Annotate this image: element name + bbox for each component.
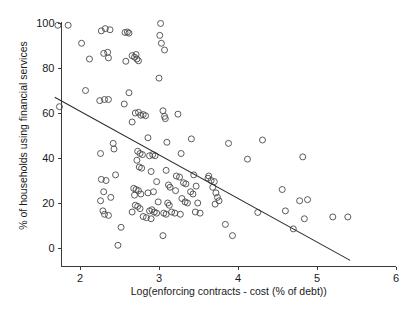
- trendline: [55, 97, 350, 260]
- x-tick-label: 4: [235, 272, 241, 284]
- data-point: [108, 194, 114, 200]
- data-point: [55, 22, 61, 28]
- data-point: [178, 151, 184, 157]
- chart-figure: 020406080100 23456 Log(enforcing contrac…: [0, 0, 419, 315]
- y-tick-label: 60: [42, 107, 54, 119]
- data-point: [101, 50, 107, 56]
- y-tick-label: 20: [42, 197, 54, 209]
- data-point: [158, 20, 164, 26]
- x-tick-label: 5: [314, 272, 320, 284]
- data-point: [121, 101, 127, 107]
- x-axis-ticks: 23456: [77, 267, 399, 284]
- data-point: [65, 22, 71, 28]
- data-point: [110, 140, 116, 146]
- data-point: [212, 201, 218, 207]
- data-point: [195, 200, 201, 206]
- y-tick-label: 100: [36, 17, 54, 29]
- y-tick-label: 0: [48, 242, 54, 254]
- data-point: [173, 188, 179, 194]
- data-point: [162, 47, 168, 53]
- data-point: [145, 190, 151, 196]
- data-point: [135, 58, 141, 64]
- data-point: [193, 183, 199, 189]
- data-point: [229, 233, 235, 239]
- y-axis-ticks: 020406080100: [36, 17, 61, 254]
- data-point: [98, 151, 104, 157]
- data-point: [145, 135, 151, 141]
- data-point: [98, 198, 104, 204]
- data-point: [134, 157, 140, 163]
- data-point: [188, 136, 194, 142]
- data-point: [105, 55, 111, 61]
- data-point: [150, 189, 156, 195]
- x-tick-label: 6: [393, 272, 399, 284]
- data-point: [156, 75, 162, 81]
- data-point: [154, 179, 160, 185]
- x-tick-label: 2: [77, 272, 83, 284]
- data-point: [259, 137, 265, 143]
- y-tick-label: 80: [42, 62, 54, 74]
- data-point: [129, 119, 135, 125]
- data-point: [105, 97, 111, 103]
- data-point: [305, 197, 311, 203]
- data-point: [222, 221, 228, 227]
- data-point: [132, 192, 138, 198]
- data-point: [148, 169, 154, 175]
- data-point: [118, 224, 124, 230]
- y-tick-label: 40: [42, 152, 54, 164]
- data-point: [226, 140, 232, 146]
- data-point: [160, 233, 166, 239]
- data-point: [83, 88, 89, 94]
- data-point: [297, 198, 303, 204]
- data-point: [101, 189, 107, 195]
- data-point: [157, 32, 163, 38]
- data-point: [279, 187, 285, 193]
- data-point: [105, 212, 111, 218]
- data-point: [244, 156, 250, 162]
- data-point: [123, 58, 129, 64]
- data-point: [126, 30, 132, 36]
- data-point: [345, 214, 351, 220]
- data-point: [301, 216, 307, 222]
- data-point: [163, 167, 169, 173]
- data-point: [113, 172, 119, 178]
- data-points: [55, 20, 351, 248]
- scatter-plot: 020406080100 23456 Log(enforcing contrac…: [0, 0, 419, 315]
- data-point: [126, 90, 132, 96]
- data-point: [164, 139, 170, 145]
- y-axis-label: % of households using financial services: [17, 41, 29, 230]
- data-point: [129, 209, 135, 215]
- data-point: [158, 40, 164, 46]
- data-point: [111, 146, 117, 152]
- data-point: [86, 56, 92, 62]
- x-tick-label: 3: [156, 272, 162, 284]
- data-point: [330, 214, 336, 220]
- data-point: [177, 211, 183, 217]
- data-point: [300, 154, 306, 160]
- data-point: [160, 108, 166, 114]
- data-point: [105, 49, 111, 55]
- x-axis-label: Log(enforcing contracts - cost (% of deb…: [131, 285, 327, 297]
- data-point: [79, 40, 85, 46]
- data-point: [155, 199, 161, 205]
- data-point: [115, 242, 121, 248]
- data-point: [282, 208, 288, 214]
- data-point: [175, 111, 181, 117]
